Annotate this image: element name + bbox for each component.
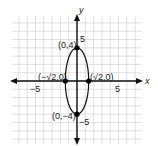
x-axis-label: x [145, 77, 150, 86]
x-axis-left-arrow-icon [10, 78, 17, 84]
label-point-top: (0,4) [58, 41, 77, 50]
y-tick-pos5: 5 [80, 35, 85, 44]
x-tick-pos5: 5 [115, 85, 120, 94]
label-point-bottom: (0,−4) [52, 112, 76, 121]
x-axis-right-arrow-icon [136, 78, 143, 84]
label-point-left: (−√2,0) [38, 73, 67, 82]
x-tick-neg5: −5 [30, 85, 40, 94]
y-axis-top-arrow-icon [74, 14, 80, 21]
y-axis-bottom-arrow-icon [74, 138, 80, 145]
y-tick-neg5: −5 [79, 118, 89, 127]
label-point-right: (√2,0) [90, 73, 113, 82]
y-axis-label: y [79, 6, 84, 15]
